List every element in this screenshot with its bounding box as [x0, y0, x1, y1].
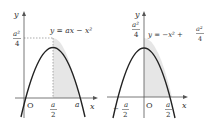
- left-x-axis-arrow: [93, 96, 98, 100]
- left-x-tick-a: a: [75, 100, 79, 109]
- right-x-tick-neg-sign: −: [113, 105, 119, 113]
- left-origin-label: O: [27, 101, 34, 110]
- left-graph: y x O a² 4 a 2 a y = ax − x²: [13, 10, 98, 119]
- right-equation-prefix: y = −x² +: [147, 31, 183, 39]
- right-equation-frac-den: 4: [198, 35, 202, 43]
- right-x-tick-half-num: a: [166, 101, 170, 109]
- right-graph: y x O a² 4 y = −x² + a² 4 − a 2 a 2: [107, 10, 204, 119]
- left-x-label: x: [90, 102, 95, 111]
- left-shaded-area: [53, 38, 79, 98]
- left-x-tick-half-den: 2: [51, 111, 55, 119]
- left-equation: y = ax − x²: [49, 26, 92, 35]
- right-x-tick-neg-den: 2: [123, 111, 127, 119]
- left-y-tick-den: 4: [15, 40, 20, 48]
- right-y-tick-num: a²: [132, 21, 139, 29]
- left-y-label: y: [13, 10, 19, 19]
- right-y-label: y: [134, 10, 140, 19]
- left-y-tick-num: a²: [13, 30, 20, 38]
- right-x-tick-half-den: 2: [166, 111, 170, 119]
- right-origin-label: O: [146, 101, 153, 110]
- right-y-axis-arrow: [142, 11, 146, 16]
- parabola-diagrams: y x O a² 4 a 2 a y = ax − x² y x O a² 4 …: [0, 0, 215, 124]
- right-equation-frac-num: a²: [196, 25, 203, 33]
- right-x-label: x: [182, 101, 187, 110]
- right-x-tick-neg-num: a: [124, 101, 128, 109]
- right-x-axis-arrow: [183, 95, 188, 99]
- right-y-tick-den: 4: [134, 31, 139, 39]
- left-y-axis-arrow: [22, 11, 26, 16]
- left-x-tick-half-num: a: [51, 101, 55, 109]
